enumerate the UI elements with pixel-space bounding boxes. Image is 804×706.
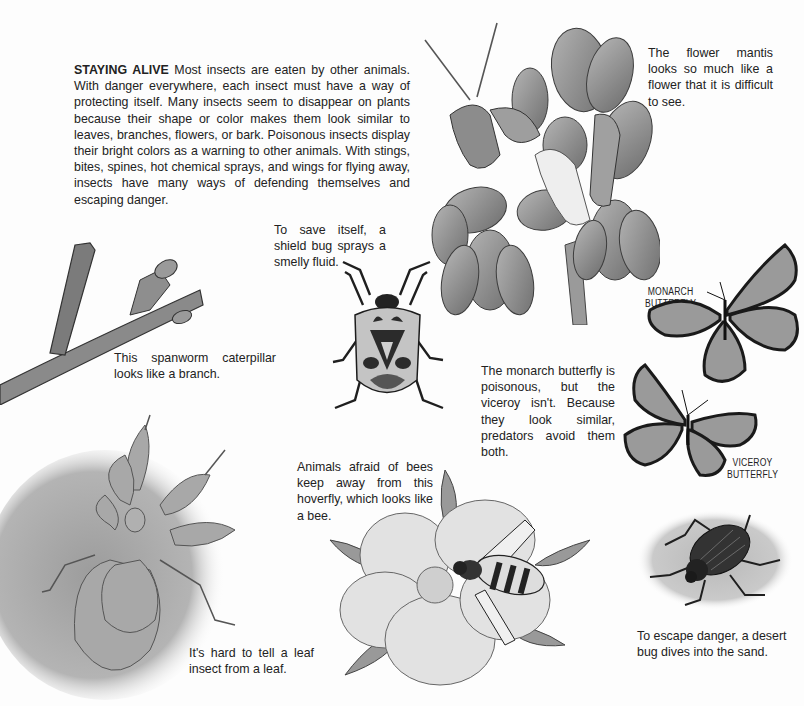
label-viceroy-line1: VICEROY <box>727 457 778 469</box>
shield-bug-illustration <box>315 260 460 410</box>
caption-desert-bug: To escape danger, a desert bug dives int… <box>637 628 802 660</box>
caption-spanworm: This spanworm caterpillar looks like a b… <box>114 350 276 382</box>
desert-bug-illustration <box>635 505 795 615</box>
hoverfly-flower-illustration <box>325 470 590 690</box>
caption-butterflies: The monarch butterfly is poisonous, but … <box>481 363 615 460</box>
intro-body: Most insects are eaten by other animals.… <box>74 63 410 207</box>
label-viceroy-line2: BUTTERFLY <box>727 469 778 481</box>
caption-leaf-insect: It's hard to tell a leaf insect from a l… <box>189 645 314 677</box>
intro-heading: STAYING ALIVE <box>74 63 169 77</box>
label-viceroy: VICEROY BUTTERFLY <box>727 457 778 481</box>
caption-flower-mantis: The flower mantis looks so much like a f… <box>648 45 773 110</box>
intro-paragraph: STAYING ALIVE Most insects are eaten by … <box>74 62 410 208</box>
